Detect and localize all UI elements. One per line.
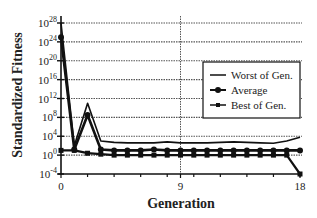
legend-label: Worst of Gen. xyxy=(231,69,293,81)
x-axis-ticks: 0918 xyxy=(58,174,306,192)
x-tick-label: 18 xyxy=(295,180,307,192)
legend: Worst of Gen. Average Best of Gen. xyxy=(203,62,300,118)
square-marker-icon xyxy=(218,153,223,158)
circle-marker-icon xyxy=(244,147,250,153)
square-marker-icon xyxy=(284,153,289,158)
square-marker-icon xyxy=(112,153,117,158)
square-marker-icon xyxy=(125,153,130,158)
square-marker-icon xyxy=(191,153,196,158)
circle-marker-icon xyxy=(138,147,144,153)
x-tick-label: 0 xyxy=(58,180,64,192)
square-marker-icon xyxy=(258,153,263,158)
square-marker-icon xyxy=(59,148,64,153)
square-marker-icon xyxy=(231,153,236,158)
circle-marker-icon xyxy=(124,147,130,153)
square-marker-icon xyxy=(205,153,210,158)
circle-marker-icon xyxy=(178,147,184,153)
circle-marker-icon xyxy=(270,147,276,153)
square-marker-icon xyxy=(165,153,170,158)
square-marker-icon xyxy=(271,153,276,158)
square-marker-icon xyxy=(72,148,77,153)
y-tick-label: 100 xyxy=(42,147,57,161)
circle-marker-icon xyxy=(151,146,157,152)
circle-marker-icon xyxy=(191,147,197,153)
y-axis-title: Standardized Fitness xyxy=(10,32,25,158)
fitness-chart: 1028102410201016101210810410010-4 0918 S… xyxy=(0,0,317,218)
circle-marker-icon xyxy=(164,147,170,153)
circle-marker-icon xyxy=(85,112,91,118)
circle-marker-icon xyxy=(231,147,237,153)
circle-marker-icon xyxy=(111,147,117,153)
x-axis-title: Generation xyxy=(147,196,215,211)
circle-marker-icon xyxy=(217,147,223,153)
legend-label: Average xyxy=(231,84,268,96)
square-marker-icon xyxy=(151,153,156,158)
square-marker-icon xyxy=(138,153,143,158)
square-marker-icon xyxy=(216,103,220,107)
circle-marker-icon xyxy=(98,146,104,152)
square-marker-icon xyxy=(298,172,303,177)
square-marker-icon xyxy=(244,153,249,158)
y-tick-label: 1012 xyxy=(38,91,57,105)
legend-label: Best of Gen. xyxy=(231,99,287,111)
circle-marker-icon xyxy=(58,34,64,40)
square-marker-icon xyxy=(178,153,183,158)
x-tick-label: 9 xyxy=(178,180,184,192)
y-tick-label: 1028 xyxy=(38,15,57,29)
y-tick-label: 104 xyxy=(42,128,57,142)
y-tick-label: 10-4 xyxy=(39,166,57,180)
y-tick-label: 1024 xyxy=(38,34,57,48)
square-marker-icon xyxy=(85,151,90,156)
y-tick-label: 1016 xyxy=(38,72,57,86)
circle-marker-icon xyxy=(257,147,263,153)
circle-marker-icon xyxy=(215,87,221,93)
y-tick-label: 108 xyxy=(42,109,57,123)
circle-marker-icon xyxy=(204,147,210,153)
circle-marker-icon xyxy=(297,147,303,153)
y-tick-label: 1020 xyxy=(38,53,57,67)
circle-marker-icon xyxy=(284,147,290,153)
square-marker-icon xyxy=(98,152,103,157)
